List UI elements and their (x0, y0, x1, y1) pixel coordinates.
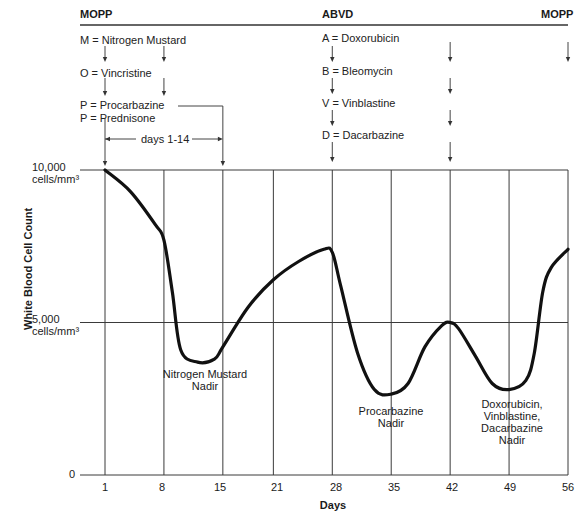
y-tick-0: 0 (69, 468, 75, 480)
regimen-label-mopp-2: MOPP (541, 8, 573, 20)
arrow-head-icon (221, 161, 225, 166)
annotation-nitrogen-mustard-nadir: Nitrogen Mustard Nadir (163, 368, 247, 392)
annotation-line: Doxorubicin, (481, 398, 542, 410)
x-tick-56: 56 (562, 481, 574, 493)
x-tick-15: 15 (214, 481, 226, 493)
arrow-head-icon (448, 57, 452, 62)
annotation-line: Procarbazine (359, 405, 424, 417)
arrow-head-icon (162, 57, 166, 62)
legend-mopp-o: O = Vincristine (80, 67, 152, 80)
arrow-head-icon (448, 157, 452, 162)
x-axis-title: Days (320, 499, 346, 511)
arrow-left-icon (105, 137, 110, 141)
legend-abvd-v: V = Vinblastine (322, 97, 396, 110)
x-tick-1: 1 (102, 481, 108, 493)
legend-mopp-p1: P = Procarbazine (80, 99, 165, 112)
x-tick-28: 28 (330, 481, 342, 493)
y-tick-5000-value: 5,000 (32, 313, 60, 325)
wbc-curve (105, 170, 568, 395)
regimen-label-abvd: ABVD (322, 8, 353, 20)
legend-abvd-a: A = Doxorubicin (322, 32, 399, 45)
legend-abvd-d: D = Dacarbazine (322, 129, 404, 142)
arrow-head-icon (448, 89, 452, 94)
legend-abvd-b: B = Bleomycin (322, 65, 393, 78)
y-tick-10000-unit: cells/mm³ (32, 173, 79, 185)
y-tick-10000-value: 10,000 (32, 161, 66, 173)
legend-mopp-p2: P = Prednisone (80, 112, 155, 125)
duration-label: days 1-14 (138, 133, 192, 146)
annotation-line: Nadir (378, 417, 404, 429)
arrow-head-icon (566, 57, 570, 62)
y-axis-title: White Blood Cell Count (22, 208, 34, 330)
y-tick-5000: 5,000 cells/mm³ (32, 313, 79, 337)
annotation-line: Nitrogen Mustard (163, 368, 247, 380)
arrow-head-icon (103, 57, 107, 62)
regimen-label-mopp-1: MOPP (80, 8, 112, 20)
arrow-head-icon (103, 161, 107, 166)
x-tick-8: 8 (159, 481, 165, 493)
annotation-line: Dacarbazine Nadir (481, 422, 543, 446)
arrow-head-icon (330, 89, 334, 94)
x-tick-42: 42 (446, 481, 458, 493)
legend-mopp-m: M = Nitrogen Mustard (80, 34, 186, 47)
arrow-head-icon (103, 91, 107, 96)
annotation-line: Vinblastine, (484, 410, 541, 422)
annotation-procarbazine-nadir: Procarbazine Nadir (359, 405, 424, 429)
arrow-head-icon (162, 91, 166, 96)
arrow-right-icon (218, 137, 223, 141)
x-tick-35: 35 (388, 481, 400, 493)
y-tick-5000-unit: cells/mm³ (32, 325, 79, 337)
x-tick-49: 49 (504, 481, 516, 493)
x-tick-21: 21 (271, 481, 283, 493)
arrow-head-icon (330, 157, 334, 162)
annotation-line: Nadir (192, 380, 218, 392)
arrow-head-icon (330, 121, 334, 126)
arrow-head-icon (448, 121, 452, 126)
arrow-head-icon (330, 57, 334, 62)
y-tick-10000: 10,000 cells/mm³ (32, 161, 79, 185)
annotation-abvd-nadir: Doxorubicin, Vinblastine, Dacarbazine Na… (476, 398, 549, 446)
